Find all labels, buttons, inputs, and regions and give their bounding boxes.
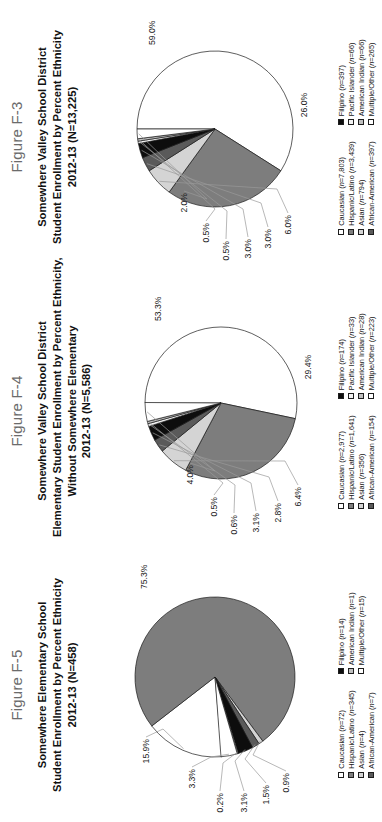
pie-chart-f4: 53.3%29.4%6.4%2.8%3.1%0.6%0.5%4.0% [98,276,335,546]
pie-chart-f3: 59.0%26.0%6.0%3.0%3.0%0.5%0.5%2.0% [83,2,335,272]
pie-value-label: 3.0% [243,239,253,259]
legend-item-label: Caucasian (n=72) [337,710,346,769]
legend-item: Multiple/Other (n=265) [367,39,376,125]
figure-block-f5: Figure F-5 Somewhere Elementary School S… [0,548,382,822]
legend-swatch-icon [338,119,344,125]
legend-swatch-icon [338,668,344,674]
legend-item: Filipino (n=14) [337,592,346,674]
legend-item-label: Pacific Islander (n=33) [347,317,356,391]
pie-value-label: 0.6% [229,515,239,535]
legend-item: Pacific Islander (n=66) [347,39,356,125]
legend-swatch-icon [358,668,364,674]
figure-title-line: Somewhere Valley School District [35,285,50,537]
pie-value-label: 0.5% [201,223,211,243]
legend-item: Caucasian (n=2,977) [337,415,346,508]
legend-item-label: African-American (n=7) [367,692,376,768]
legend-column-right: Filipino (n=174)Pacific Islander (n=33)A… [337,313,376,399]
pie-value-label: 53.3% [153,296,163,321]
figure-title-f4: Somewhere Valley School District Element… [35,285,94,537]
figure-title-line: 2012-13 (N=458) [65,578,80,792]
legend-item-label: Pacific Islander (n=66) [347,43,356,117]
pie-svg-f4: 53.3%29.4%6.4%2.8%3.1%0.6%0.5%4.0% [123,293,311,529]
pie-value-label: 6.4% [293,487,303,507]
figure-title-line: Student Enrollment by Percent Ethnicity [50,30,65,244]
pie-value-label: 1.5% [261,785,271,805]
pie-value-label: 3.3% [187,769,197,789]
legend-swatch-icon [348,229,354,235]
figure-title-f5: Somewhere Elementary School Student Enro… [35,578,79,792]
legend-f5: Caucasian (n=72)Hispanic/Latino (n=345)A… [335,550,378,820]
figure-title-f3: Somewhere Valley School District Student… [35,30,79,244]
legend-column-left: Caucasian (n=72)Hispanic/Latino (n=345)A… [337,690,376,777]
pie-value-label: 29.4% [303,354,313,379]
figures-row: Figure F-3 Somewhere Valley School Distr… [0,0,382,822]
figure-title-line: Somewhere Valley School District [35,30,50,244]
legend-item-label: Filipino (n=14) [337,618,346,665]
pie-svg-f5: 15.9%75.3%0.9%1.5%3.1%0.2%3.3% [111,567,307,803]
pie-value-label: 0.9% [281,773,291,793]
legend-item-label: Multiple/Other (n=15) [357,596,366,666]
legend-item: African-American (n=154) [367,415,376,508]
legend-swatch-icon [358,229,364,235]
pie-value-label: 6.0% [283,215,293,235]
legend-item-label: Caucasian (n=2,977) [337,431,346,500]
figure-label-f4: Figure F-4 [8,375,25,446]
legend-swatch-icon [338,393,344,399]
legend-item: African-American (n=7) [367,690,376,777]
legend-item-label: American Indian (n=66) [357,39,366,116]
legend-item: Pacific Islander (n=33) [347,313,356,399]
document-page: Figure F-3 Somewhere Valley School Distr… [0,0,382,822]
legend-swatch-icon [348,668,354,674]
legend-item-label: American Indian (n=28) [357,313,366,390]
legend-swatch-icon [338,229,344,235]
pie-value-label: 15.9% [141,739,151,764]
legend-item: American Indian (n=28) [357,313,366,399]
legend-item-label: Asian (n=794) [357,180,366,226]
legend-item: American Indian (n=66) [357,39,366,125]
figure-block-f4: Figure F-4 Somewhere Valley School Distr… [0,274,382,548]
pie-value-label: 0.5% [209,497,219,517]
legend-item-label: American Indian (n=1) [347,592,356,665]
legend-swatch-icon [368,229,374,235]
legend-column-left: Caucasian (n=2,977)Hispanic/Latino (n=1,… [337,415,376,508]
legend-swatch-icon [358,772,364,778]
legend-item-label: Asian (n=356) [357,454,366,500]
legend-f3: Caucasian (n=7,803)Hispanic/Latino (n=3,… [335,2,378,272]
legend-swatch-icon [348,119,354,125]
pie-value-label: 2.8% [273,503,283,523]
figure-title-line: Student Enrollment by Percent Ethnicity [50,578,65,792]
label-leader-line [220,752,237,791]
legend-swatch-icon [358,393,364,399]
pie-chart-f5: 15.9%75.3%0.9%1.5%3.1%0.2%3.3% [83,550,335,820]
figure-label-f5: Figure F-5 [8,649,25,720]
legend-swatch-icon [368,503,374,509]
legend-swatch-icon [338,503,344,509]
legend-item: Caucasian (n=7,803) [337,141,346,234]
legend-swatch-icon [358,503,364,509]
pie-value-label: 3.1% [239,793,249,813]
legend-f4: Caucasian (n=2,977)Hispanic/Latino (n=1,… [335,276,378,546]
figure-title-line: Without Somewhere Elementary [65,285,80,537]
pie-value-label: 3.1% [251,513,261,533]
legend-item-label: Asian (n=4) [357,731,366,769]
legend-swatch-icon [368,772,374,778]
label-leader-line [235,750,245,792]
legend-item-label: African-American (n=397) [367,141,376,225]
legend-swatch-icon [348,393,354,399]
legend-swatch-icon [338,772,344,778]
legend-item-label: Hispanic/Latino (n=1,641) [347,415,356,499]
legend-item: Asian (n=356) [357,415,366,508]
pie-svg-f3: 59.0%26.0%6.0%3.0%3.0%0.5%0.5%2.0% [111,19,307,255]
legend-item: Asian (n=794) [357,141,366,234]
legend-item-label: African-American (n=154) [367,415,376,499]
pie-value-label: 4.0% [185,465,195,485]
figure-title-line: Somewhere Elementary School [35,578,50,792]
legend-item: Caucasian (n=72) [337,690,346,777]
legend-item-label: Multiple/Other (n=265) [367,43,376,117]
legend-swatch-icon [358,119,364,125]
figure-title-line: Elementary Student Enrollment by Percent… [50,285,65,537]
pie-value-label: 0.5% [221,241,231,261]
legend-item-label: Caucasian (n=7,803) [337,157,346,226]
legend-item: Filipino (n=397) [337,39,346,125]
figure-title-line: 2012-13 (N=5,586) [79,285,94,537]
